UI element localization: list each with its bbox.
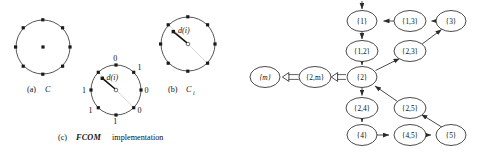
panel-c-bit-label-left: 1 [82,86,86,95]
panel-a-point [61,26,64,29]
panel-b-group: d(i) (b) C i [159,15,217,95]
panel-c-bit-label-bottom-left: 1 [89,106,93,115]
panel-c-point [132,106,135,109]
panel-a-caption-symbol: C [45,85,51,94]
figure-svg: (a) C d(i) (b) C i [0,0,480,152]
graph-node-nm[interactable]: {m} [250,67,280,88]
panel-c-point [114,63,117,66]
panel-b-point [186,70,189,73]
panel-a-center-point [41,45,44,48]
panel-c-group: d(i) 0 1 0 0 1 1 1 (c) FCOM implementati… [58,54,163,142]
node-label: {1,2} [354,47,370,56]
panel-b-point [186,15,189,18]
graph-node-n25[interactable]: {2,5} [394,98,426,119]
panel-a-point [41,73,44,76]
panel-c-caption-symbol: FCOM [75,133,101,142]
graph-node-n2m[interactable]: {2,m} [299,67,331,88]
graph-node-n12[interactable]: {1,2} [346,41,378,62]
panel-c-bit-label-bottom-right: 0 [138,106,142,115]
panel-a-point [22,65,25,68]
edge-n23-to-n3 [422,30,442,45]
node-label: {2,m} [306,73,324,82]
graph-node-n4[interactable]: {4} [347,125,377,146]
panel-a-point [68,45,71,48]
node-label: {2,3} [402,47,418,56]
panel-c-point [97,106,100,109]
graph-node-n5[interactable]: {5} [436,125,466,146]
panel-c-caption-prefix: (c) [58,133,67,142]
panel-b-vector-head [172,30,175,33]
edge-n2-to-n23 [376,59,400,71]
node-label: {2,5} [402,104,418,113]
node-label: {2} [357,73,368,82]
figure-container: (a) C d(i) (b) C i [0,0,480,152]
panel-c-point [139,88,142,91]
panel-c-bit-label-top-right: 1 [138,63,142,72]
graph-node-n2[interactable]: {2} [347,67,377,88]
panel-a-point [22,26,25,29]
edge-n2-to-n2m-arrowhead [331,73,337,82]
edge-n2m-to-nm-arrowhead [282,73,289,82]
graph-node-n23[interactable]: {2,3} [394,41,426,62]
node-label: {2,4} [354,104,370,113]
graph-node-n24[interactable]: {2,4} [346,98,378,119]
panel-c-bit-label-right: 0 [145,86,149,95]
panel-c-point [89,88,92,91]
panel-b-caption-symbol: C [186,85,192,94]
node-label: {4,5} [402,131,418,140]
graph-node-n45[interactable]: {4,5} [394,125,426,146]
panel-c-vector-label: d(i) [107,73,119,82]
node-label: {1} [357,17,368,26]
panel-c-vector-head [101,77,104,80]
panel-a-group: (a) C [14,18,72,94]
node-label: {1,3} [402,17,418,26]
panel-b-point [167,62,170,65]
graph-node-n13[interactable]: {1,3} [394,11,426,32]
panel-b-point [167,23,170,26]
panel-a-point [41,18,44,21]
panel-a-point [61,65,64,68]
panel-c-caption-suffix: implementation [112,133,163,142]
panel-b-point [159,42,162,45]
panel-a-caption-prefix: (a) [27,85,36,94]
node-label: {3} [446,17,457,26]
transition-graph-group: {1} {1,3} {3} {1,2} {2,3} {m} [250,1,466,146]
panel-b-point [206,62,209,65]
panel-b-vector-label: d(i) [178,26,190,35]
panel-c-bit-label-bottom: 1 [113,117,117,126]
edge-n25-to-n2 [375,86,398,102]
panel-c-point [97,71,100,74]
panel-b-caption-prefix: (b) [168,85,178,94]
panel-a-point [14,45,17,48]
panel-b-point [213,42,216,45]
edge-n5-to-n25 [422,115,443,128]
panel-b-point [206,23,209,26]
node-label: {5} [446,131,457,140]
graph-node-n1[interactable]: {1} [347,11,377,32]
panel-c-bit-label-top: 0 [113,54,117,63]
panel-b-caption-subscript: i [193,90,195,96]
panel-c-point [132,71,135,74]
node-label: {m} [259,73,270,82]
node-label: {4} [357,131,368,140]
graph-node-n3[interactable]: {3} [436,11,466,32]
